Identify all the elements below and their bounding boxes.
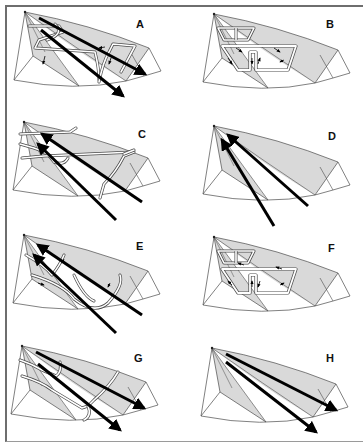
panel-label-g: G [134,352,143,364]
panel-label-c: C [138,128,146,140]
panel-label-b: B [326,18,334,30]
figure-canvas: A B [0,0,363,444]
panel-label-h: H [326,352,334,364]
panel-label-f: F [328,242,335,254]
panel-label-d: D [328,130,336,142]
panel-label-e: E [136,240,143,252]
panel-label-a: A [136,18,144,30]
